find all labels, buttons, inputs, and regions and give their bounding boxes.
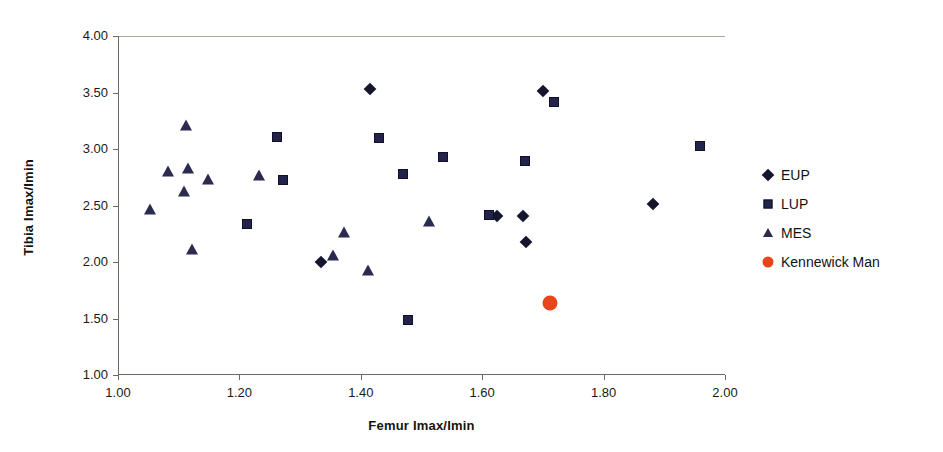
x-axis-tick-label: 1.60 — [452, 385, 512, 400]
y-axis-tick-label: 3.00 — [50, 141, 108, 156]
x-axis-tick — [482, 375, 483, 380]
y-axis-tick — [113, 206, 118, 207]
y-axis-tick-label: 2.00 — [50, 254, 108, 269]
x-axis-tick-label: 1.00 — [88, 385, 148, 400]
data-point-lup — [484, 210, 494, 220]
data-point-mes — [423, 216, 435, 227]
data-point-mes — [144, 203, 156, 214]
data-point-eup — [537, 85, 550, 98]
circle-icon — [757, 251, 779, 273]
plot-area — [118, 36, 725, 375]
chart-legend: EUPLUPMESKennewick Man — [757, 160, 937, 276]
y-axis-tick — [113, 36, 118, 37]
plot-frame-left — [118, 36, 119, 375]
data-point-mes — [182, 163, 194, 174]
legend-item-label: MES — [779, 225, 811, 241]
data-point-eup — [517, 209, 530, 222]
legend-item-label: EUP — [779, 167, 810, 183]
y-axis-tick — [113, 149, 118, 150]
legend-item-label: Kennewick Man — [779, 254, 880, 270]
data-point-eup — [364, 83, 377, 96]
legend-item-lup[interactable]: LUP — [757, 189, 937, 218]
x-axis-tick — [239, 375, 240, 380]
triangle-icon — [757, 222, 779, 244]
data-point-mes — [253, 170, 265, 181]
data-point-lup — [272, 132, 282, 142]
plot-frame-bottom — [118, 374, 725, 375]
data-point-lup — [403, 315, 413, 325]
data-point-lup — [242, 219, 252, 229]
y-axis-tick — [113, 319, 118, 320]
data-point-lup — [549, 97, 559, 107]
x-axis-title: Femur Imax/Imin — [118, 418, 725, 433]
y-axis-tick-label: 3.50 — [50, 85, 108, 100]
y-axis-tick-label: 2.50 — [50, 198, 108, 213]
legend-item-label: LUP — [779, 196, 808, 212]
y-axis-tick — [113, 93, 118, 94]
data-point-mes — [327, 250, 339, 261]
x-axis-tick — [604, 375, 605, 380]
y-axis-title: Tibia Imax/Imin — [21, 128, 36, 288]
legend-item-eup[interactable]: EUP — [757, 160, 937, 189]
plot-frame-top — [118, 36, 725, 37]
data-point-mes — [178, 185, 190, 196]
x-axis-tick-label: 1.20 — [209, 385, 269, 400]
x-axis-tick — [118, 375, 119, 380]
data-point-kennewick-man — [543, 295, 558, 310]
data-point-lup — [374, 133, 384, 143]
y-axis-tick-label: 1.50 — [50, 311, 108, 326]
scatter-chart-figure: Tibia Imax/Imin Femur Imax/Imin EUPLUPME… — [0, 0, 943, 452]
data-point-mes — [186, 243, 198, 254]
legend-item-kennewick-man[interactable]: Kennewick Man — [757, 247, 937, 276]
data-point-eup — [647, 198, 660, 211]
diamond-icon — [757, 164, 779, 186]
y-axis-tick-label: 1.00 — [50, 367, 108, 382]
data-point-eup — [315, 256, 328, 269]
data-point-lup — [398, 169, 408, 179]
data-point-mes — [202, 173, 214, 184]
square-icon — [757, 193, 779, 215]
y-axis-tick-label: 4.00 — [50, 28, 108, 43]
x-axis-tick-label: 2.00 — [695, 385, 755, 400]
data-point-eup — [520, 235, 533, 248]
data-point-lup — [520, 156, 530, 166]
x-axis-tick — [725, 375, 726, 380]
data-point-mes — [362, 264, 374, 275]
data-point-lup — [438, 152, 448, 162]
x-axis-tick — [361, 375, 362, 380]
legend-item-mes[interactable]: MES — [757, 218, 937, 247]
data-point-lup — [695, 141, 705, 151]
data-point-mes — [180, 120, 192, 131]
data-point-mes — [162, 165, 174, 176]
y-axis-tick — [113, 262, 118, 263]
data-point-mes — [338, 226, 350, 237]
x-axis-tick-label: 1.80 — [574, 385, 634, 400]
data-point-lup — [278, 175, 288, 185]
x-axis-tick-label: 1.40 — [331, 385, 391, 400]
